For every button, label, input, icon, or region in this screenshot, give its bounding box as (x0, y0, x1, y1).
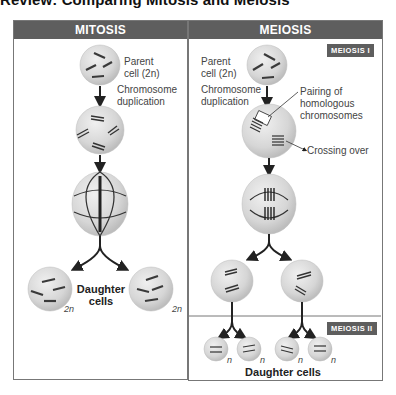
mitosis-daughter-cell-right (129, 267, 173, 311)
meiosis-ii-daughter-3 (275, 337, 299, 361)
mitosis-duplication-label: Chromosome duplication (117, 84, 177, 108)
mitosis-ploidy-left: 2n (64, 304, 74, 314)
mitosis-metaphase-cell (72, 172, 128, 236)
meiosis-ii-daughter-1 (204, 337, 228, 361)
mitosis-daughter-label: Daughter cells (72, 283, 130, 307)
meiosis-daughter-label: Daughter cells (228, 366, 338, 378)
mitosis-duplicated-cell (76, 106, 124, 154)
pairing-label: Pairing of homologous chromosomes (300, 86, 363, 122)
diagram-graphics (0, 0, 396, 395)
mitosis-ploidy-right: 2n (172, 304, 182, 314)
meiosis-i-daughter-left (211, 260, 253, 302)
mitosis-parent-cell (80, 45, 120, 85)
meiosis-i-daughter-right (281, 260, 323, 302)
crossing-over-label: Crossing over (307, 145, 369, 157)
meiosis-metaphase-i-cell (242, 174, 296, 234)
meiosis-ploidy-2: n (260, 355, 265, 365)
meiosis-parent-label: Parent cell (2n) (201, 56, 237, 80)
meiosis-ii-daughter-4 (308, 337, 332, 361)
meiosis-ploidy-4: n (331, 355, 336, 365)
meiosis-parent-cell (247, 45, 287, 85)
meiosis-ploidy-3: n (298, 355, 303, 365)
meiosis-ploidy-1: n (227, 355, 232, 365)
meiosis-ii-tag: MEIOSIS II (327, 322, 377, 335)
mitosis-parent-label: Parent cell (2n) (124, 56, 160, 80)
meiosis-duplication-label: Chromosome duplication (201, 84, 261, 108)
meiosis-ii-daughter-2 (237, 337, 261, 361)
meiosis-i-tag: MEIOSIS I (327, 44, 374, 57)
